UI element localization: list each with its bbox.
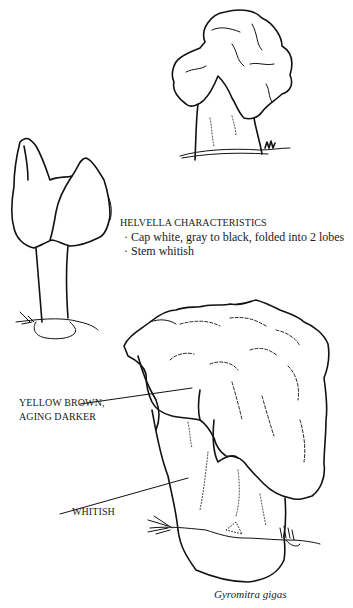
helvella-bullet-2: · Stem whitish xyxy=(124,244,194,259)
cap-color-label-line1: YELLOW BROWN, xyxy=(19,397,105,408)
cap-color-label-line2: AGING DARKER xyxy=(19,411,96,422)
helvella-characteristics-title: HELVELLA CHARACTERISTICS xyxy=(120,217,267,228)
illustration-page: HELVELLA CHARACTERISTICS · Cap white, gr… xyxy=(0,0,353,608)
helvella-drawing xyxy=(12,139,110,339)
species-caption: Gyromitra gigas xyxy=(214,588,287,600)
top-mushroom-drawing xyxy=(172,10,292,160)
bullet-glyph: · xyxy=(124,230,128,244)
stem-color-label: WHITISH xyxy=(72,506,115,517)
mushroom-drawings xyxy=(0,0,353,608)
bullet-text: Cap white, gray to black, folded into 2 … xyxy=(131,230,344,244)
bullet-text: Stem whitish xyxy=(131,244,194,258)
helvella-bullet-1: · Cap white, gray to black, folded into … xyxy=(124,230,344,245)
gyromitra-gigas-drawing xyxy=(60,300,329,582)
bullet-glyph: · xyxy=(124,244,128,258)
